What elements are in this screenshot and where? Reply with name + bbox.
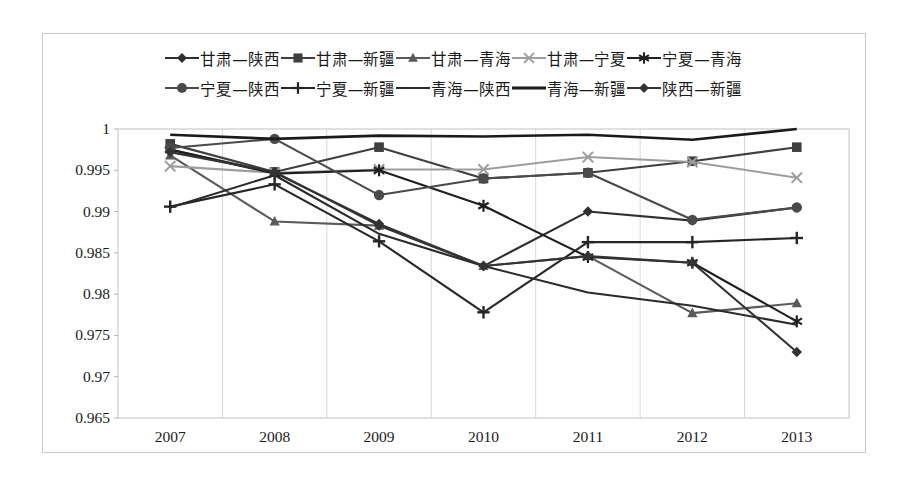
x-axis-tick-label: 2011 — [573, 428, 603, 446]
plot-background — [118, 129, 849, 418]
chart-plot — [43, 34, 865, 452]
y-axis-tick-label: 0.97 — [83, 368, 110, 386]
y-axis-tick-label: 0.98 — [83, 285, 110, 303]
data-point — [374, 142, 384, 152]
data-point — [583, 168, 593, 178]
x-axis-tick-label: 2012 — [677, 428, 708, 446]
x-axis-tick-label: 2009 — [364, 428, 395, 446]
y-axis-tick-label: 1 — [102, 120, 110, 138]
data-point — [478, 173, 488, 183]
y-axis-tick-label: 0.975 — [75, 326, 110, 344]
x-axis-tick-label: 2013 — [781, 428, 812, 446]
y-axis-tick-label: 0.965 — [75, 409, 110, 427]
y-axis-tick-label: 0.99 — [83, 203, 110, 221]
y-axis-tick-label: 0.995 — [75, 161, 110, 179]
data-point — [792, 202, 802, 212]
y-axis-tick-label: 0.985 — [75, 244, 110, 262]
y-axis-ticks — [114, 129, 118, 418]
data-point — [374, 190, 384, 200]
data-point — [792, 142, 802, 152]
x-axis-tick-label: 2008 — [259, 428, 290, 446]
data-point — [687, 215, 697, 225]
chart-figure: 甘肃—陕西甘肃—新疆甘肃—青海甘肃—宁夏宁夏—青海 宁夏—陕西宁夏—新疆青海—陕… — [42, 33, 866, 453]
x-axis-tick-label: 2007 — [155, 428, 186, 446]
x-axis-tick-label: 2010 — [468, 428, 499, 446]
